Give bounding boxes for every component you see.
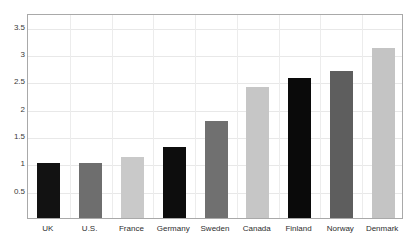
bar bbox=[205, 121, 228, 218]
gridline-horizontal bbox=[28, 56, 402, 57]
x-axis-tick-label: Finland bbox=[278, 224, 320, 233]
gridline-vertical bbox=[195, 15, 196, 218]
gridline-vertical bbox=[153, 15, 154, 218]
gridline-vertical bbox=[112, 15, 113, 218]
y-axis-tick-label: 1.5 bbox=[1, 133, 25, 141]
gridline-vertical bbox=[279, 15, 280, 218]
bar-chart: 0.511.522.533.5 UKU.S.FranceGermanySwede… bbox=[0, 0, 410, 245]
bar bbox=[330, 71, 353, 218]
x-axis-tick-label: UK bbox=[27, 224, 69, 233]
bar bbox=[372, 48, 395, 218]
gridline-vertical bbox=[70, 15, 71, 218]
bar bbox=[79, 163, 102, 218]
y-axis-tick-label: 1 bbox=[1, 160, 25, 168]
y-axis-tick-label: 3 bbox=[1, 51, 25, 59]
x-axis-tick-label: Norway bbox=[319, 224, 361, 233]
y-axis-tick-label: 2.5 bbox=[1, 78, 25, 86]
bar bbox=[246, 87, 269, 218]
gridline-horizontal bbox=[28, 29, 402, 30]
bar bbox=[121, 157, 144, 218]
bar bbox=[163, 147, 186, 218]
x-axis-tick-label: France bbox=[111, 224, 153, 233]
plot-area bbox=[27, 14, 403, 219]
x-axis-tick-label: Canada bbox=[236, 224, 278, 233]
gridline-vertical bbox=[237, 15, 238, 218]
bar bbox=[288, 78, 311, 218]
x-axis-tick-label: U.S. bbox=[69, 224, 111, 233]
gridline-vertical bbox=[320, 15, 321, 218]
bar bbox=[37, 163, 60, 218]
y-axis-tick-label: 3.5 bbox=[1, 24, 25, 32]
y-axis-tick-label: 2 bbox=[1, 106, 25, 114]
y-axis-tick-label: 0.5 bbox=[1, 188, 25, 196]
x-axis-tick-label: Germany bbox=[152, 224, 194, 233]
x-axis-tick-label: Denmark bbox=[361, 224, 403, 233]
x-axis-tick-label: Sweden bbox=[194, 224, 236, 233]
gridline-vertical bbox=[362, 15, 363, 218]
